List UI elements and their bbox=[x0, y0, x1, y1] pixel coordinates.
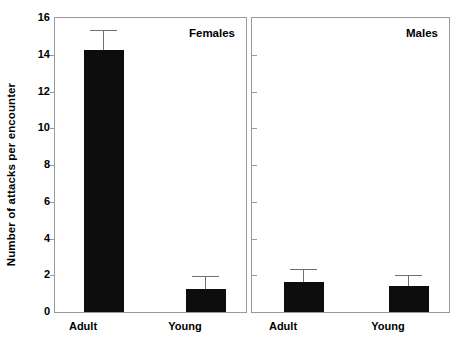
y-tick-label: 0 bbox=[28, 306, 50, 317]
plot-area-females bbox=[55, 18, 246, 312]
y-tick-label: 14 bbox=[28, 48, 50, 59]
plot-area-males bbox=[252, 18, 449, 312]
y-tick-label: 10 bbox=[28, 122, 50, 133]
bar-group bbox=[84, 18, 124, 312]
panel-males: Males bbox=[251, 17, 450, 313]
y-tick-mark bbox=[252, 128, 257, 129]
y-tick-mark bbox=[50, 239, 55, 240]
y-axis-tick-labels: 0246810121416 bbox=[24, 0, 50, 349]
y-tick-mark bbox=[50, 55, 55, 56]
chart-figure: Number of attacks per encounter 02468101… bbox=[0, 0, 460, 349]
x-tick-label-males-young: Young bbox=[348, 320, 428, 332]
y-tick-mark bbox=[252, 202, 257, 203]
y-tick-mark bbox=[252, 165, 257, 166]
bar-group bbox=[186, 18, 226, 312]
bar bbox=[186, 289, 226, 312]
x-tick-label-females-young: Young bbox=[145, 320, 225, 332]
y-tick-mark bbox=[50, 275, 55, 276]
error-bar-cap bbox=[192, 276, 219, 277]
x-tick-label-females-adult: Adult bbox=[43, 320, 123, 332]
y-tick-mark bbox=[50, 202, 55, 203]
error-bar-cap bbox=[90, 30, 117, 31]
y-tick-mark bbox=[50, 165, 55, 166]
y-axis-title: Number of attacks per encounter bbox=[0, 0, 22, 349]
error-bar-cap bbox=[290, 269, 317, 270]
y-tick-label: 16 bbox=[28, 12, 50, 23]
y-tick-mark bbox=[50, 128, 55, 129]
y-tick-mark bbox=[252, 239, 257, 240]
error-bar-line bbox=[103, 31, 104, 50]
y-tick-label: 2 bbox=[28, 269, 50, 280]
y-tick-label: 12 bbox=[28, 85, 50, 96]
y-tick-label: 6 bbox=[28, 195, 50, 206]
bar bbox=[84, 50, 124, 312]
y-tick-mark bbox=[252, 275, 257, 276]
bar-group bbox=[284, 18, 324, 312]
y-tick-label: 8 bbox=[28, 159, 50, 170]
bar bbox=[389, 286, 429, 312]
error-bar-line bbox=[205, 277, 206, 289]
y-tick-label: 4 bbox=[28, 232, 50, 243]
bar bbox=[284, 282, 324, 312]
bar-group bbox=[389, 18, 429, 312]
panel-females: Females bbox=[54, 17, 247, 313]
y-tick-mark bbox=[50, 92, 55, 93]
y-tick-mark bbox=[252, 55, 257, 56]
error-bar-cap bbox=[395, 275, 422, 276]
error-bar-line bbox=[408, 276, 409, 286]
error-bar-line bbox=[303, 270, 304, 282]
y-tick-mark bbox=[252, 92, 257, 93]
x-tick-label-males-adult: Adult bbox=[243, 320, 323, 332]
